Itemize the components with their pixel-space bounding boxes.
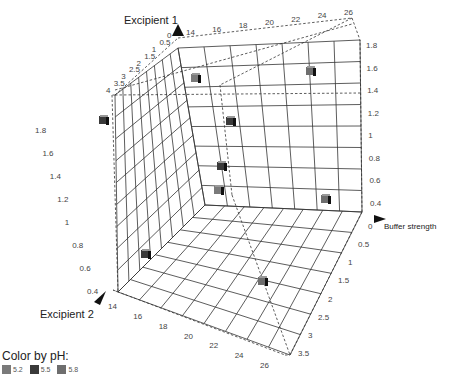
depth-tick: 0.5 — [358, 240, 370, 249]
excipient1-tick: 0 — [167, 31, 172, 40]
excipient1-tick: 2 — [137, 59, 142, 68]
excipient2-tick: 26 — [260, 361, 269, 370]
left-vertical-tick: 1.2 — [57, 195, 69, 204]
depth-tick: 2.5 — [318, 313, 330, 322]
buffer-top-tick: 14 — [186, 28, 195, 37]
right-vertical-tick: 1.2 — [368, 109, 380, 118]
left-wall-line — [117, 135, 193, 204]
bounding-box-edge — [112, 95, 118, 292]
grid-lines — [112, 18, 362, 355]
left-wall-line — [139, 77, 151, 259]
back-wall-line — [181, 62, 360, 68]
legend-swatch — [30, 365, 39, 374]
legend-entry: 5.5 — [30, 365, 51, 374]
buffer-top-tick: 26 — [344, 8, 353, 17]
legend-entry: 5.2 — [2, 365, 23, 374]
data-point-cube — [306, 66, 316, 76]
legend-label: 5.8 — [68, 366, 78, 373]
legend-label: 5.5 — [41, 366, 51, 373]
data-points — [99, 66, 331, 286]
legend-title: Color by pH: — [2, 349, 81, 363]
left-vertical-tick: 1.6 — [42, 149, 54, 158]
left-vertical-tick: 1 — [65, 218, 70, 227]
data-point-cube — [214, 185, 224, 195]
data-point-cube — [191, 73, 201, 83]
excipient2-tick: 16 — [133, 312, 142, 321]
floor-line — [161, 207, 244, 308]
bounding-box-edge — [220, 85, 232, 195]
legend-swatch — [57, 365, 66, 374]
floor-line — [204, 209, 284, 324]
bounding-box-edge — [352, 18, 360, 40]
data-point-cube — [226, 116, 236, 126]
buffer-top-tick: 20 — [265, 18, 274, 27]
legend-label: 5.2 — [13, 366, 23, 373]
left-wall-line — [117, 170, 199, 248]
left-vertical-tick: 1.4 — [50, 172, 62, 181]
excipient1-tick: 4 — [106, 86, 111, 95]
data-point-cube — [258, 276, 268, 286]
floor-line — [247, 210, 323, 339]
left-wall-line — [116, 118, 190, 183]
excipient2-tick: 14 — [108, 302, 117, 311]
left-wall-line — [131, 83, 140, 270]
excipient2-tick: 24 — [235, 351, 244, 360]
left-wall-line — [115, 95, 118, 292]
left-wall-line — [147, 72, 162, 249]
left-wall-line — [116, 83, 184, 139]
buffer-top-tick: 22 — [291, 15, 300, 24]
left-vertical-tick: 0.4 — [87, 287, 99, 296]
back-wall-line — [202, 185, 362, 190]
back-wall-line — [195, 146, 361, 147]
depth-tick: 1.5 — [338, 276, 350, 285]
depth-tick: 0 — [368, 222, 373, 231]
left-vertical-tick: 1.8 — [35, 126, 47, 135]
left-wall-line — [170, 54, 194, 216]
depth-tick: 2 — [328, 295, 333, 304]
3d-scatter-plot: Excipient 1 Buffer strength Excipient 2 … — [0, 0, 450, 385]
bounding-box-edge — [115, 93, 360, 95]
left-wall-line — [154, 66, 172, 238]
excipient2-tick: 18 — [159, 322, 168, 331]
excipient1-axis-label: Excipient 1 — [124, 14, 178, 26]
legend-items: 5.25.55.8 — [2, 365, 81, 374]
floor-line — [183, 208, 264, 316]
legend-entry: 5.8 — [57, 365, 78, 374]
left-vertical-tick: 0.6 — [80, 264, 92, 273]
data-point-cube — [321, 194, 331, 204]
right-vertical-tick: 1.6 — [367, 64, 379, 73]
buffer-top-tick: 16 — [212, 25, 221, 34]
legend: Color by pH: 5.25.55.8 — [2, 349, 81, 374]
left-wall-line — [123, 89, 129, 281]
floor-line — [226, 209, 304, 331]
depth-tick: 3.5 — [298, 349, 310, 358]
right-vertical-tick: 0.6 — [369, 176, 381, 185]
buffer-top-tick: 24 — [318, 11, 327, 20]
legend-swatch — [2, 365, 11, 374]
buffer-top-tick: 18 — [239, 21, 248, 30]
right-vertical-tick: 1.8 — [366, 41, 378, 50]
right-vertical-tick: 0.8 — [369, 154, 381, 163]
excipient1-tick: 1 — [152, 45, 157, 54]
data-point-cube — [141, 249, 151, 259]
right-vertical-tick: 0.4 — [370, 199, 382, 208]
right-vertical-tick: 1 — [368, 131, 373, 140]
left-wall-line — [118, 188, 202, 271]
back-wall-line — [188, 105, 361, 107]
right-vertical-tick: 1.4 — [367, 86, 379, 95]
buffer-strength-axis-label: Buffer strength — [384, 222, 436, 231]
floor-line — [118, 205, 205, 292]
back-wall-line — [185, 83, 361, 87]
excipient2-tick: 20 — [184, 332, 193, 341]
excipient2-tick: 22 — [209, 341, 218, 350]
excipient1-tick: 3 — [121, 72, 126, 81]
depth-tick: 1 — [348, 258, 353, 267]
data-point-cube — [99, 115, 109, 125]
depth-tick: 3 — [308, 331, 313, 340]
data-point-cube — [217, 161, 227, 171]
left-vertical-tick: 0.8 — [72, 241, 84, 250]
back-wall-line — [192, 126, 362, 127]
excipient2-axis-label: Excipient 2 — [40, 308, 94, 320]
left-wall-line — [117, 153, 196, 227]
